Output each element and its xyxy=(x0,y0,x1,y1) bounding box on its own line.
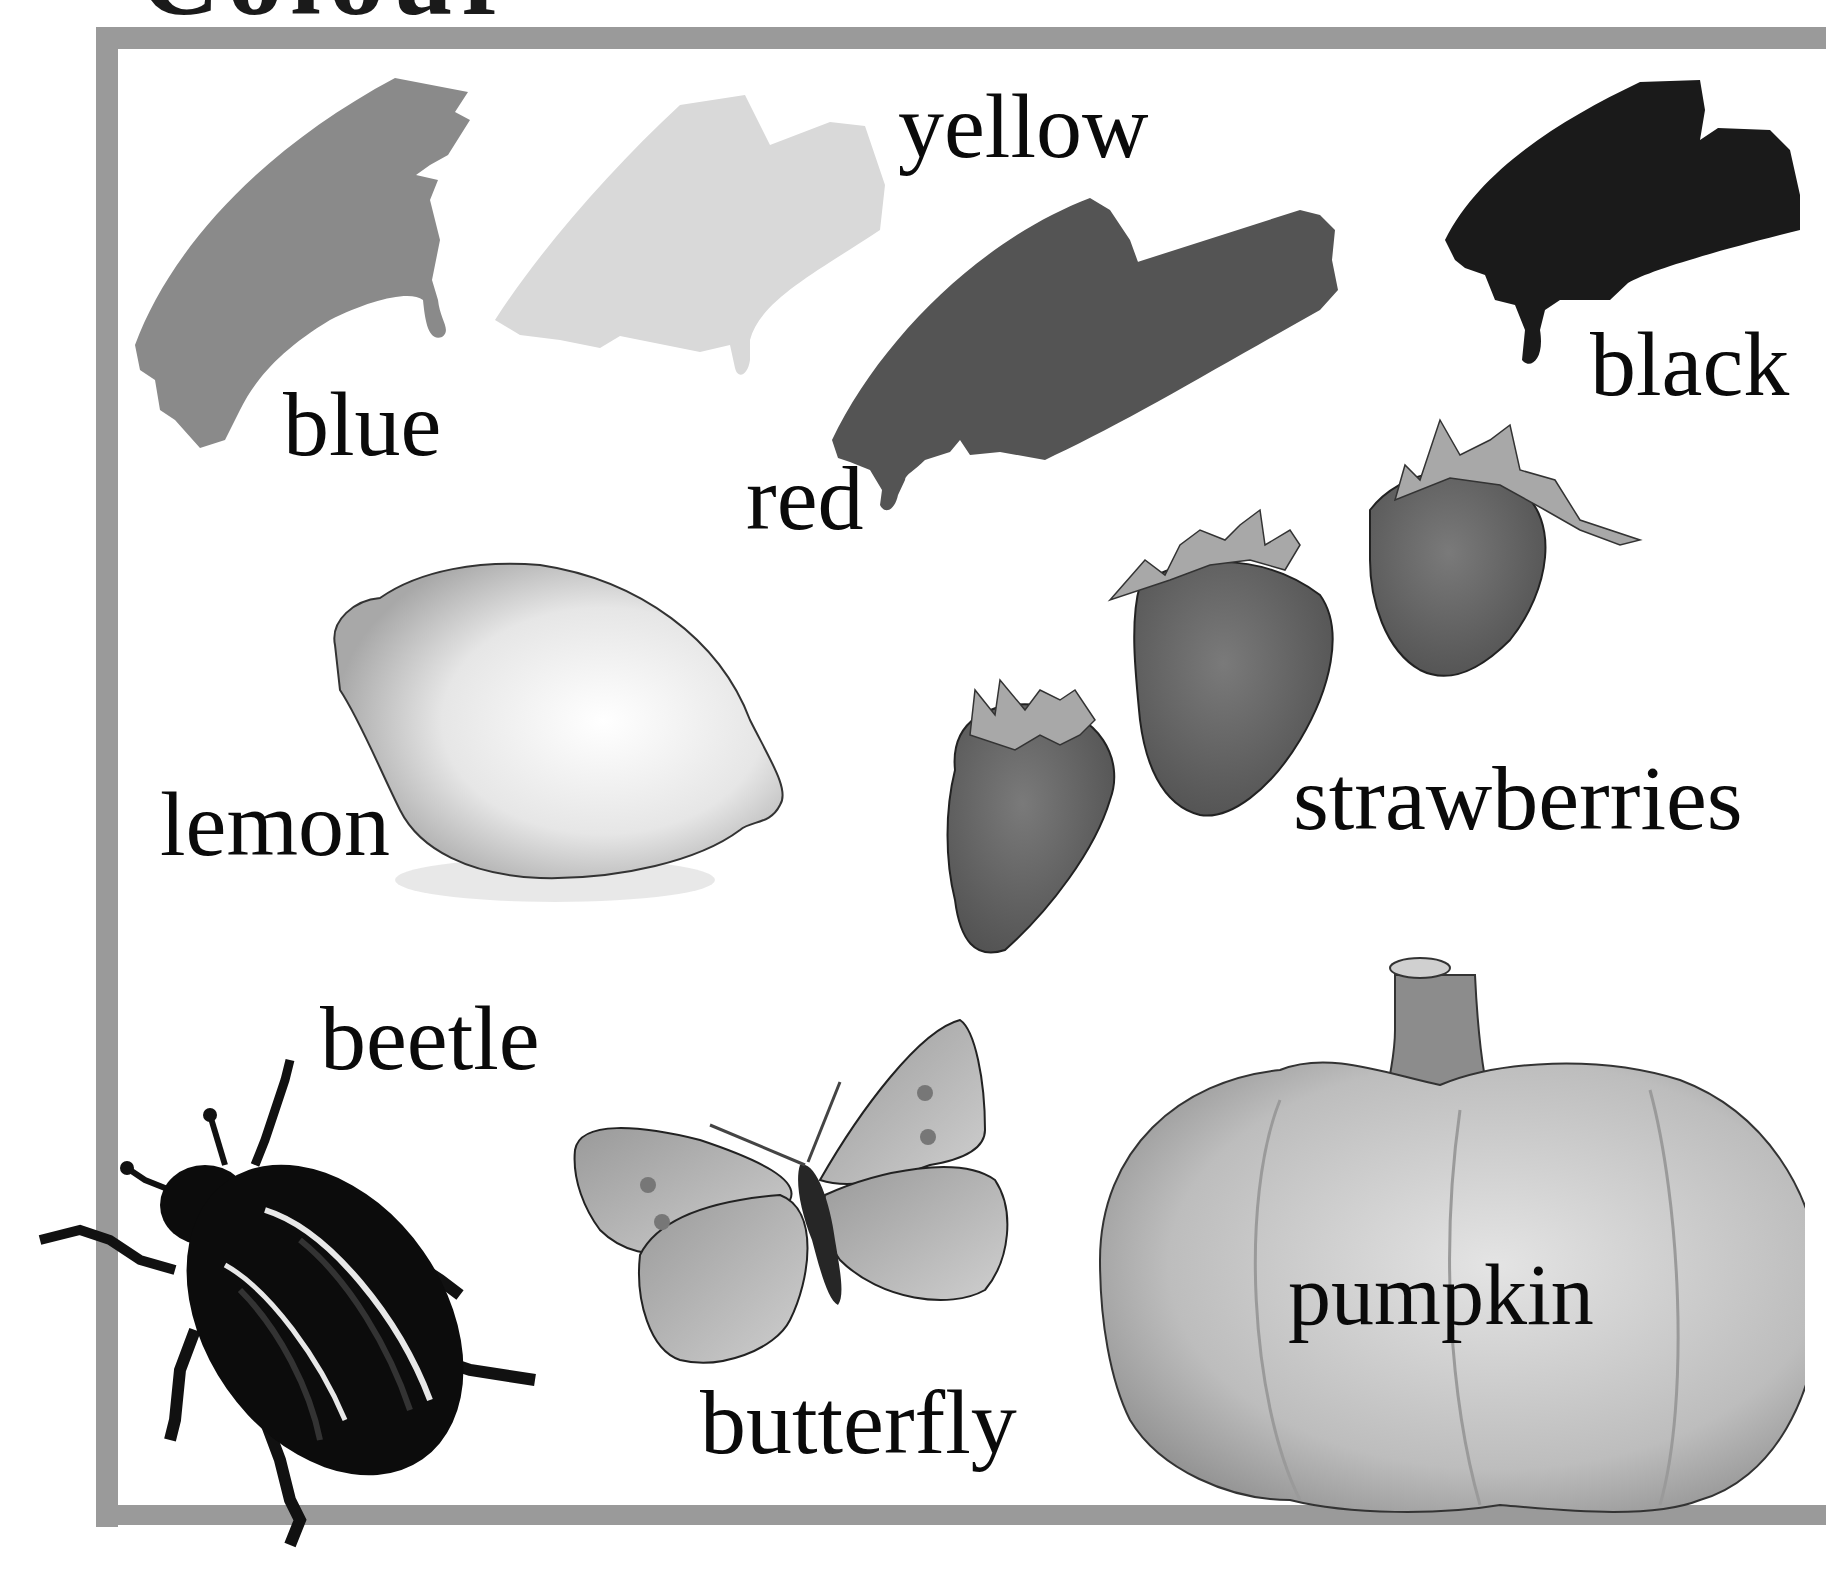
label-red: red xyxy=(746,452,863,544)
label-beetle: beetle xyxy=(320,992,540,1084)
label-strawberries: strawberries xyxy=(1293,752,1743,844)
strawberries-illustration xyxy=(948,420,1641,953)
label-blue: blue xyxy=(283,378,441,470)
label-yellow: yellow xyxy=(898,80,1148,172)
pumpkin-illustration xyxy=(1100,958,1805,1512)
label-black: black xyxy=(1590,318,1789,410)
label-lemon: lemon xyxy=(160,778,390,870)
label-pumpkin: pumpkin xyxy=(1288,1252,1594,1338)
yellow-paint-swatch xyxy=(495,95,885,375)
butterfly-illustration xyxy=(575,1020,1008,1363)
label-butterfly: butterfly xyxy=(700,1376,1017,1468)
lemon-illustration xyxy=(334,564,782,902)
beetle-illustration xyxy=(40,1060,535,1545)
red-paint-swatch xyxy=(832,198,1338,510)
